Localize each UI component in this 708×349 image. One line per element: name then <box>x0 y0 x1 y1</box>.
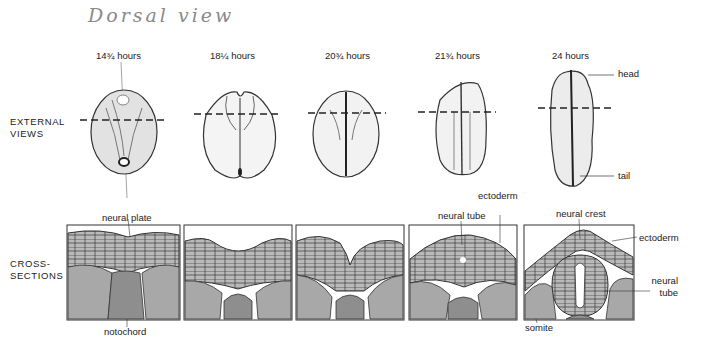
section-panel-4 <box>409 215 517 320</box>
handwritten-note: Dorsal view <box>88 4 234 26</box>
section-panel-5 <box>524 219 650 323</box>
label-head: head <box>618 68 639 79</box>
embryo-stage-4 <box>436 82 486 175</box>
section-panel-2 <box>184 225 292 320</box>
embryo-stage-2 <box>203 92 275 178</box>
section-panel-3 <box>296 225 404 320</box>
embryo-stage-5 <box>551 70 594 186</box>
external-views-illustration <box>0 60 708 210</box>
label-tail: tail <box>618 170 630 181</box>
section-panel-1 <box>67 219 180 327</box>
cross-sections-illustration <box>0 215 708 349</box>
embryo-stage-3 <box>313 91 379 177</box>
label-ectoderm-1: ectoderm <box>478 190 518 201</box>
embryo-stage-1 <box>91 90 157 174</box>
